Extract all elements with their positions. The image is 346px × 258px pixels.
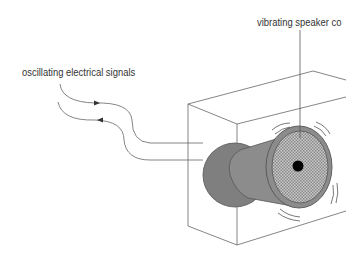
arrow-out-icon [97,118,103,123]
cone-center [293,161,304,172]
signal-wires [58,84,203,160]
signals-label: oscillating electrical signals [22,66,135,78]
speaker-cone-label: vibrating speaker co [257,16,341,28]
arrow-in-icon [94,101,100,106]
loudspeaker-diagram: oscillating electrical signals vibrating… [0,0,346,258]
diagram-drawing [0,0,346,258]
